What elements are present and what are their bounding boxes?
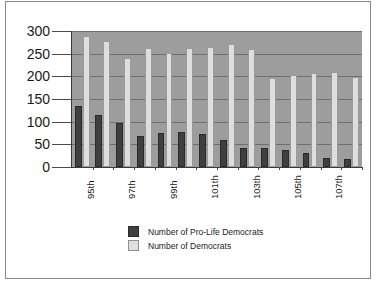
y-tick-mark-200	[52, 76, 72, 77]
y-tick-label-0: 0	[8, 160, 50, 174]
bar-108th-series-2	[352, 77, 359, 167]
bar-group-99th	[155, 31, 176, 167]
bar-105th-series-1	[282, 150, 289, 167]
bar-100th-series-2	[186, 48, 193, 167]
bar-96th-series-1	[95, 115, 102, 167]
bar-104th-series-1	[261, 148, 268, 167]
y-tick-label-250: 250	[8, 47, 50, 61]
y-tick-mark-300	[52, 31, 72, 32]
x-tick-mark-97th	[134, 167, 135, 170]
legend-swatch-light	[128, 240, 139, 251]
legend-item-2: Number of Democrats	[128, 240, 263, 251]
bar-group-105th	[279, 31, 300, 167]
x-tick-label-99th: 99th	[168, 181, 179, 200]
chart-legend: Number of Pro-Life DemocratsNumber of De…	[128, 226, 263, 254]
bar-98th-series-1	[137, 136, 144, 167]
y-tick-mark-250	[52, 54, 72, 55]
x-tick-mark-103th	[258, 167, 259, 170]
bar-group-95th	[72, 31, 93, 167]
bar-group-100th	[176, 31, 197, 167]
bar-101th-series-2	[207, 47, 214, 167]
x-tick-mark-96th	[113, 167, 114, 170]
x-tick-mark-102th	[238, 167, 239, 170]
x-tick-mark-105th	[300, 167, 301, 170]
y-tick-mark-100	[52, 122, 72, 123]
bar-103th-series-1	[240, 148, 247, 167]
bar-group-97th	[113, 31, 134, 167]
x-tick-mark-95th	[93, 167, 94, 170]
bar-105th-series-2	[290, 75, 297, 167]
bar-96th-series-2	[103, 41, 110, 167]
bar-108th-series-1	[344, 159, 351, 167]
bar-100th-series-1	[178, 132, 185, 167]
bar-97th-series-2	[124, 58, 131, 167]
bar-99th-series-2	[166, 53, 173, 167]
bar-group-96th	[93, 31, 114, 167]
chart-figure: 050100150200250300 95th97th99th101th103t…	[0, 0, 385, 292]
bar-107th-series-1	[323, 158, 330, 167]
x-tick-mark-99th	[176, 167, 177, 170]
bar-95th-series-2	[83, 36, 90, 167]
bar-group-107th	[321, 31, 342, 167]
bar-102th-series-2	[228, 44, 235, 167]
x-tick-label-107th: 107th	[333, 175, 344, 199]
bar-106th-series-1	[303, 153, 310, 167]
bar-103th-series-2	[248, 49, 255, 167]
bar-97th-series-1	[116, 123, 123, 167]
y-tick-label-100: 100	[8, 115, 50, 129]
y-tick-mark-0	[52, 167, 72, 168]
bar-group-103th	[238, 31, 259, 167]
bar-group-108th	[341, 31, 362, 167]
x-tick-label-105th: 105th	[292, 175, 303, 199]
x-tick-mark-100th	[196, 167, 197, 170]
legend-label-2: Number of Democrats	[148, 241, 231, 251]
bar-104th-series-2	[269, 78, 276, 167]
x-tick-mark-107th	[341, 167, 342, 170]
bar-group-106th	[300, 31, 321, 167]
y-axis-spine	[71, 31, 72, 168]
legend-swatch-dark	[128, 226, 139, 237]
x-tick-label-101th: 101th	[209, 175, 220, 199]
y-tick-mark-50	[52, 144, 72, 145]
x-tick-mark-106th	[321, 167, 322, 170]
x-tick-label-95th: 95th	[85, 181, 96, 200]
bar-99th-series-1	[158, 133, 165, 167]
plot-area	[72, 31, 362, 167]
y-tick-mark-150	[52, 99, 72, 100]
bar-95th-series-1	[75, 106, 82, 167]
bar-group-104th	[258, 31, 279, 167]
bar-102th-series-1	[220, 140, 227, 167]
y-tick-label-200: 200	[8, 69, 50, 83]
y-tick-label-150: 150	[8, 92, 50, 106]
y-tick-label-50: 50	[8, 137, 50, 151]
bar-group-98th	[134, 31, 155, 167]
x-tick-label-97th: 97th	[126, 181, 137, 200]
bar-106th-series-2	[311, 73, 318, 167]
legend-item-1: Number of Pro-Life Democrats	[128, 226, 263, 237]
bar-group-101th	[196, 31, 217, 167]
bar-101th-series-1	[199, 134, 206, 167]
bar-98th-series-2	[145, 48, 152, 167]
x-tick-mark-108th	[362, 167, 363, 170]
x-tick-mark-98th	[155, 167, 156, 170]
x-tick-mark-101th	[217, 167, 218, 170]
x-tick-label-103th: 103th	[251, 175, 262, 199]
x-tick-mark-104th	[279, 167, 280, 170]
bar-group-102th	[217, 31, 238, 167]
y-tick-label-300: 300	[8, 24, 50, 38]
bar-107th-series-2	[331, 72, 338, 167]
legend-label-1: Number of Pro-Life Democrats	[148, 227, 263, 237]
